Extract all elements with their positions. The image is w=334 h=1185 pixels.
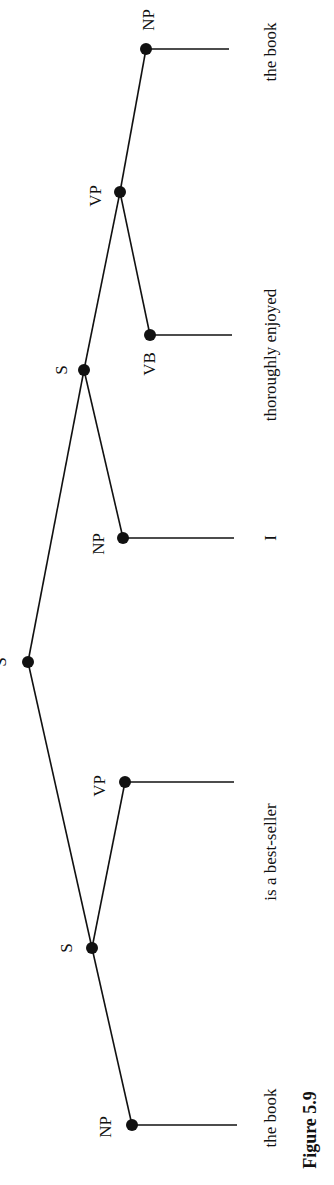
node-dot-s0 bbox=[22, 656, 34, 668]
node-dot-s2 bbox=[78, 364, 90, 376]
figure-caption: Figure 5.9 bbox=[300, 1091, 320, 1169]
node-labels: S S NP VP S NP VP VB NP bbox=[0, 9, 159, 1138]
node-dot-np2 bbox=[117, 532, 129, 544]
node-label-vb: VB bbox=[140, 352, 159, 376]
tree-edges bbox=[28, 49, 150, 1125]
edge-s1-np1 bbox=[92, 948, 132, 1125]
node-label-np3: NP bbox=[139, 9, 158, 31]
node-dot-np1 bbox=[126, 1119, 138, 1131]
edge-vp2-np3 bbox=[120, 49, 146, 192]
node-dot-vp2 bbox=[114, 186, 126, 198]
node-dot-vb bbox=[144, 329, 156, 341]
node-label-np2: NP bbox=[89, 533, 108, 555]
leaf-words: the book is a best-seller I thoroughly e… bbox=[261, 22, 280, 1148]
leaf-word-the-book-2: the book bbox=[261, 22, 280, 82]
node-label-s2: S bbox=[52, 365, 71, 374]
leaf-stems bbox=[123, 49, 237, 1125]
edge-s2-np2 bbox=[84, 370, 123, 538]
node-label-s1: S bbox=[57, 943, 76, 952]
leaf-word-i: I bbox=[261, 535, 280, 541]
edge-s1-vp1 bbox=[92, 782, 125, 948]
edge-s2-vp2 bbox=[84, 192, 120, 370]
node-label-vp1: VP bbox=[90, 775, 109, 797]
leaf-word-the-book-1: the book bbox=[261, 1088, 280, 1148]
leaf-word-thoroughly-enjoyed: thoroughly enjoyed bbox=[261, 288, 280, 421]
edge-vp2-vb bbox=[120, 192, 150, 335]
node-label-vp2: VP bbox=[86, 185, 105, 207]
node-label-np1: NP bbox=[96, 1116, 115, 1138]
edge-s0-s2 bbox=[28, 370, 84, 662]
edge-s0-s1 bbox=[28, 662, 92, 948]
node-dot-np3 bbox=[140, 43, 152, 55]
node-dot-vp1 bbox=[119, 776, 131, 788]
node-label-s0: S bbox=[0, 657, 10, 666]
parse-tree-diagram: S S NP VP S NP VP VB NP the book is a be… bbox=[0, 0, 334, 1185]
node-dot-s1 bbox=[86, 942, 98, 954]
leaf-word-is-a-best-seller: is a best-seller bbox=[261, 803, 280, 901]
